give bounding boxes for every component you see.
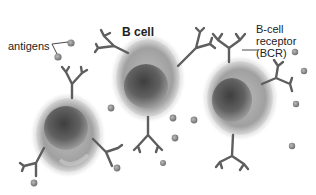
nucleus: [44, 106, 88, 150]
b-cell-label: B cell: [122, 26, 154, 38]
bcr-label-line3: (BCR): [256, 47, 287, 59]
nucleus: [124, 64, 168, 108]
bcr-label-line2: receptor: [256, 35, 296, 47]
nucleus: [212, 78, 252, 122]
antigens-label: antigens: [8, 40, 50, 52]
left-b-cell: [33, 95, 103, 175]
bcr-label-line1: B-cell: [256, 23, 284, 35]
middle-b-cell: [113, 36, 183, 120]
b-cell-diagram: antigens B cell B-cell receptor (BCR): [0, 0, 316, 195]
right-b-cell: [204, 58, 276, 138]
